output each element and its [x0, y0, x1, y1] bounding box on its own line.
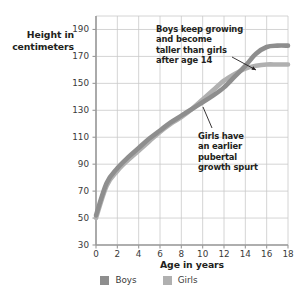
annotation-line: Boys keep growing [156, 24, 248, 34]
y-axis-tick-label: 110 [63, 133, 89, 142]
y-axis-tick-label: 170 [63, 52, 89, 61]
annotation-line: and become [156, 34, 248, 44]
x-axis-tick-label: 6 [152, 250, 168, 259]
chart-legend: Boys Girls [0, 276, 298, 285]
x-axis-tick-label: 0 [88, 250, 104, 259]
y-axis-tick-label: 70 [63, 187, 89, 196]
x-axis-tick-label: 10 [195, 250, 211, 259]
x-axis-tick-label: 18 [280, 250, 296, 259]
y-axis-tick-label: 50 [63, 214, 89, 223]
legend-label-girls: Girls [178, 276, 198, 285]
legend-swatch-girls [163, 276, 172, 285]
annotation-line: growth spurt [198, 162, 276, 172]
legend-item-boys[interactable]: Boys [100, 276, 136, 285]
y-axis-tick-label: 150 [63, 79, 89, 88]
annotation-line: pubertal [198, 152, 276, 162]
x-axis-tick-label: 2 [109, 250, 125, 259]
annotation-line: Girls have [198, 131, 276, 141]
x-axis-title: Age in years [96, 259, 288, 270]
x-axis-tick-label: 16 [259, 250, 275, 259]
x-axis-tick-label: 14 [237, 250, 253, 259]
growth-chart: Height in centimeters 305070901101301501… [0, 0, 298, 292]
annotation-line: after age 14 [156, 55, 248, 65]
x-axis-tick-label: 4 [131, 250, 147, 259]
legend-item-girls[interactable]: Girls [163, 276, 198, 285]
annotation-boys: Boys keep growingand becometaller than g… [156, 24, 248, 66]
x-axis-tick-label: 12 [216, 250, 232, 259]
annotation-girls: Girls havean earlierpubertalgrowth spurt [198, 131, 276, 173]
annotation-line: taller than girls [156, 45, 248, 55]
legend-swatch-boys [100, 276, 109, 285]
y-axis-tick-label: 130 [63, 106, 89, 115]
y-axis-tick-label: 90 [63, 160, 89, 169]
legend-label-boys: Boys [115, 276, 136, 285]
y-axis-tick-label: 190 [63, 25, 89, 34]
y-axis-tick-label: 30 [63, 241, 89, 250]
annotation-line: an earlier [198, 141, 276, 151]
x-axis-tick-label: 8 [173, 250, 189, 259]
